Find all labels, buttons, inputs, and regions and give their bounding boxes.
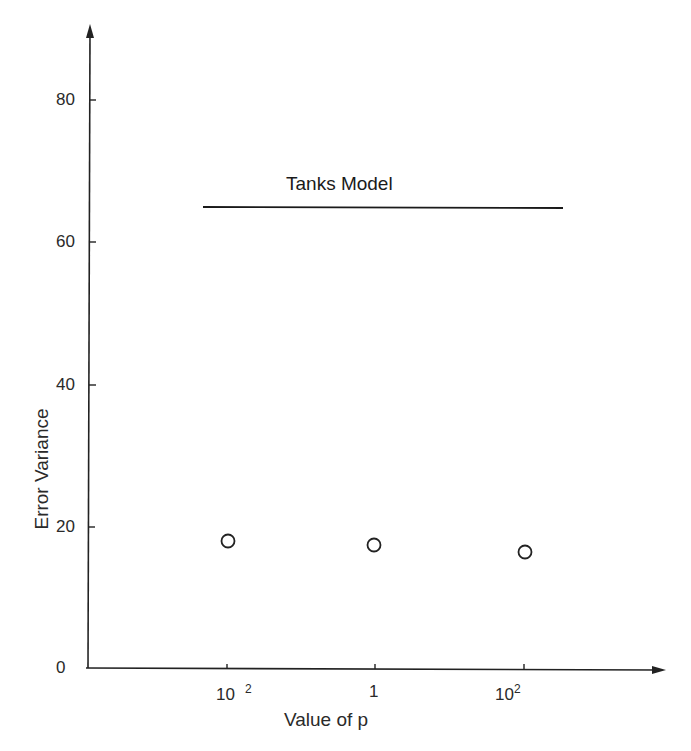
x-tick-label-2: 102	[495, 682, 521, 705]
x-axis-arrow-icon	[652, 666, 666, 674]
x-tick-label-1: 1	[369, 682, 378, 702]
data-point	[519, 546, 532, 559]
data-point	[222, 535, 235, 548]
y-tick-label: 40	[56, 375, 75, 395]
chart-canvas	[0, 0, 691, 751]
x-tick-label-0: 102	[216, 682, 252, 705]
y-tick-label: 80	[56, 90, 75, 110]
data-point	[368, 539, 381, 552]
x-axis-title: Value of p	[284, 709, 368, 731]
x-axis	[86, 668, 658, 670]
y-tick-label: 0	[56, 658, 65, 678]
data-points	[222, 535, 532, 559]
y-tick-label: 20	[56, 517, 75, 537]
tanks-model-line	[203, 207, 563, 208]
y-axis	[88, 30, 90, 668]
y-axis-arrow-icon	[86, 24, 94, 38]
y-tick-label: 60	[56, 232, 75, 252]
y-axis-title: Error Variance	[31, 399, 53, 539]
tanks-model-label: Tanks Model	[286, 173, 393, 195]
